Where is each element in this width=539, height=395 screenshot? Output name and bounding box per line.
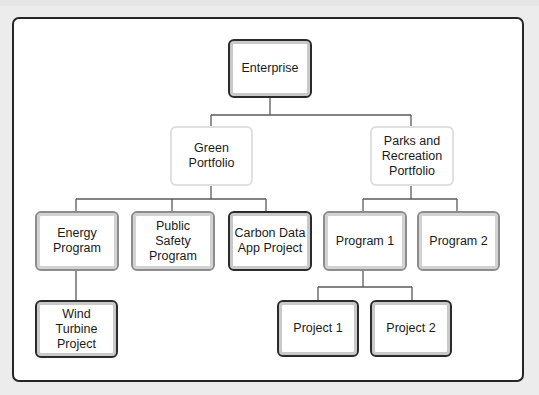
node-label: Energy Program: [53, 226, 101, 256]
node-label: Project 1: [293, 321, 342, 336]
node-project-1: Project 1: [277, 300, 359, 357]
node-label: Program 1: [336, 234, 394, 249]
node-program-1: Program 1: [323, 211, 407, 271]
node-label: Public Safety Program: [149, 219, 197, 264]
node-wind-turbine-project: Wind Turbine Project: [35, 300, 118, 358]
node-enterprise: Enterprise: [228, 39, 312, 98]
node-label: Program 2: [429, 234, 487, 249]
node-label: Parks and Recreation Portfolio: [382, 134, 442, 179]
node-project-2: Project 2: [370, 300, 452, 357]
node-label: Enterprise: [242, 61, 299, 76]
node-program-2: Program 2: [417, 211, 500, 271]
node-label: Wind Turbine Project: [56, 307, 98, 352]
node-carbon-data-app-project: Carbon Data App Project: [228, 211, 312, 271]
node-parks-recreation-portfolio: Parks and Recreation Portfolio: [370, 126, 454, 186]
node-label: Green Portfolio: [189, 141, 235, 171]
node-label: Project 2: [386, 321, 435, 336]
node-green-portfolio: Green Portfolio: [170, 126, 253, 186]
cropped-top-strip: [0, 0, 539, 6]
node-public-safety-program: Public Safety Program: [131, 211, 215, 271]
node-energy-program: Energy Program: [35, 211, 119, 271]
node-label: Carbon Data App Project: [235, 226, 306, 256]
